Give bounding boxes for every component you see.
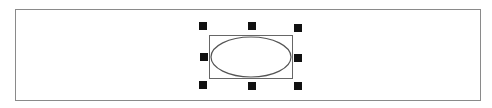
resize-handle-bottom-left[interactable] — [199, 81, 207, 89]
resize-handle-top-right[interactable] — [294, 24, 302, 32]
resize-handle-top-left[interactable] — [199, 22, 207, 30]
resize-handle-bottom-center[interactable] — [248, 82, 256, 90]
resize-handle-middle-left[interactable] — [200, 53, 208, 61]
resize-handle-top-center[interactable] — [248, 22, 256, 30]
ellipse-icon — [210, 36, 292, 78]
selected-ellipse-shape[interactable] — [209, 35, 293, 79]
resize-handle-bottom-right[interactable] — [294, 82, 302, 90]
resize-handle-middle-right[interactable] — [294, 54, 302, 62]
